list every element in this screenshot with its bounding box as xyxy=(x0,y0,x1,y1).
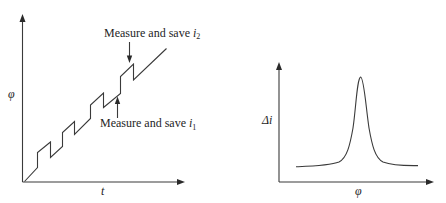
peak-curve xyxy=(296,77,418,167)
voltammetry-diagram: Measure and save i2 Measure and save i1 … xyxy=(0,0,446,203)
right-y-axis-arrow-icon xyxy=(276,62,282,70)
left-x-axis-arrow-icon xyxy=(177,179,185,185)
right-y-axis-label: Δi xyxy=(261,113,272,127)
left-panel-staircase: Measure and save i2 Measure and save i1 … xyxy=(8,14,200,198)
measure-i2-arrow-icon xyxy=(127,56,132,64)
right-panel-peak: Δi φ xyxy=(261,62,434,198)
annotation-measure-i1: Measure and save i1 xyxy=(100,116,196,132)
left-y-axis-label: φ xyxy=(8,87,15,101)
left-x-axis-label: t xyxy=(101,184,105,198)
right-x-axis-arrow-icon xyxy=(426,179,434,185)
left-y-axis-arrow-icon xyxy=(20,14,26,22)
annotation-measure-i2: Measure and save i2 xyxy=(104,26,200,42)
staircase-waveform xyxy=(25,49,167,182)
right-x-axis-label: φ xyxy=(355,184,362,198)
